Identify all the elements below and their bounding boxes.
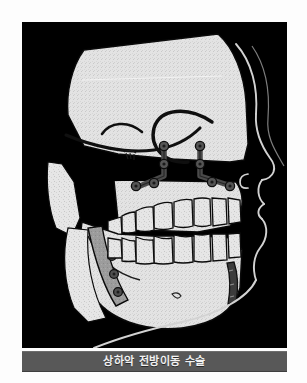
cephalometric-drawing <box>22 22 287 348</box>
figure-caption-text: 상하악 전방이동 수술 <box>103 356 205 367</box>
orthognathic-surgery-illustration <box>22 22 287 348</box>
figure-root: 상하악 전방이동 수술 <box>0 0 307 383</box>
figure-caption-bar: 상하악 전방이동 수술 <box>22 351 287 372</box>
cranium <box>68 34 248 162</box>
lefort-osteotomy-line <box>106 177 238 179</box>
